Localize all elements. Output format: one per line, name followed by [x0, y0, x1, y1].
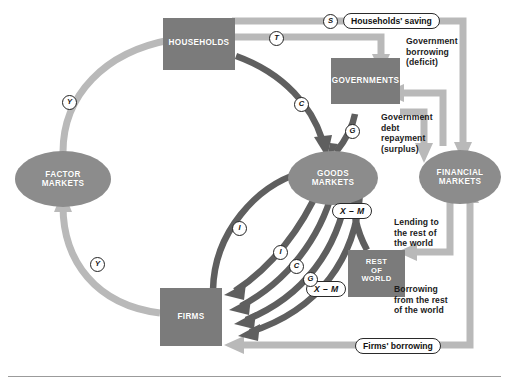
pill-households-saving: Households' saving	[343, 13, 440, 29]
badge-consumption-c-bundle: C	[289, 259, 304, 274]
node-rest-of-world-shape[interactable]	[348, 250, 405, 297]
flow-government-debt-repayment	[400, 112, 424, 147]
flow-lending-to-rest-of-world	[413, 196, 450, 252]
badge-consumption-c-top: C	[294, 97, 309, 112]
node-firms-shape[interactable]	[160, 288, 222, 346]
arrowhead-goods-to-firms-c	[229, 298, 251, 315]
flow-factor-markets-to-households	[63, 40, 170, 152]
bottom-divider	[8, 376, 501, 377]
arrowhead-goods-to-firms-g	[234, 312, 256, 329]
node-households-shape[interactable]	[163, 18, 235, 70]
badge-government-g: G	[345, 124, 360, 139]
flow-households-taxes	[232, 37, 381, 58]
node-governments-shape[interactable]	[331, 58, 400, 104]
badge-income-y-lower: Y	[90, 257, 105, 272]
badge-income-y-upper: Y	[62, 95, 77, 110]
flow-canvas	[0, 0, 509, 385]
badge-taxes-t: T	[269, 31, 284, 46]
node-goods-markets-shape[interactable]	[288, 151, 378, 205]
badge-investment-i-outer: I	[232, 221, 247, 236]
pill-net-exports-upper: X – M	[332, 203, 372, 219]
badge-government-g-bundle: G	[303, 272, 318, 287]
circular-flow-diagram: HOUSEHOLDS GOVERNMENTS FIRMS REST OF WOR…	[0, 0, 509, 385]
pill-firms-borrowing: Firms' borrowing	[355, 338, 441, 354]
arrowhead-goods-to-firms-i	[224, 283, 246, 300]
flow-firms-to-factor-markets	[63, 206, 160, 313]
node-financial-markets-shape[interactable]	[419, 150, 501, 204]
flow-consumption-households-to-goods	[236, 56, 322, 139]
arrowhead-firms-borrowing	[224, 336, 244, 354]
badge-savings-s: S	[323, 14, 338, 29]
node-factor-markets-shape[interactable]	[15, 151, 111, 207]
badge-investment-i-inner: I	[273, 245, 288, 260]
